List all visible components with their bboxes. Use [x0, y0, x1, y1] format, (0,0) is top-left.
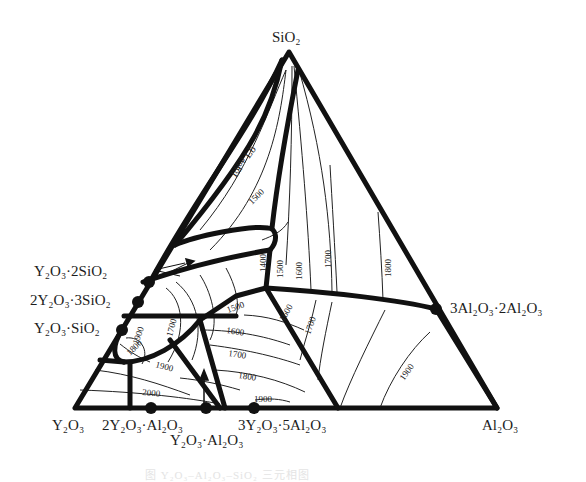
point-2y2o3-al2o3 — [145, 402, 157, 414]
svg-text:1600: 1600 — [277, 302, 295, 323]
point-y2o3-2sio2 — [143, 276, 155, 288]
compound-label-y2o3-al2o3: Y₂O₃·Al₂O₃ — [170, 433, 243, 448]
isotherm-lines — [80, 66, 430, 408]
svg-text:2000: 2000 — [142, 387, 161, 399]
compound-label-3al2o3-2al2o3: 3Al₂O₃·2Al₂O₃ — [450, 301, 543, 316]
svg-text:1400: 1400 — [258, 254, 268, 273]
vertex-label-y2o3: Y₂O₃ — [52, 418, 84, 433]
vertex-label-sio2: SiO₂ — [272, 30, 301, 45]
compound-label-y2o3-sio2: Y₂O₃·SiO₂ — [34, 321, 100, 336]
compound-label-y2o3-2sio2: Y₂O₃·2SiO₂ — [34, 264, 107, 279]
svg-text:1700: 1700 — [302, 315, 318, 336]
compound-label-3y2o3-5al2o3: 3Y₂O₃·5Al₂O₃ — [238, 418, 326, 433]
svg-text:1900: 1900 — [397, 361, 416, 382]
svg-text:1700: 1700 — [164, 317, 178, 337]
point-y2o3-sio2 — [116, 324, 128, 336]
svg-text:1700: 1700 — [323, 250, 333, 269]
point-2y2o3-3sio2 — [132, 296, 144, 308]
figure-caption: 图 Y₂O₃–Al₂O₃–SiO₂ 三元相图 — [145, 466, 310, 482]
svg-text:1600: 1600 — [226, 325, 246, 337]
compound-label-2y2o3-3sio2: 2Y₂O₃·3SiO₂ — [30, 293, 111, 308]
svg-text:1900: 1900 — [254, 394, 273, 404]
svg-text:1900: 1900 — [154, 359, 174, 373]
triangle-outline — [75, 52, 497, 408]
point-y2o3-al2o3 — [200, 402, 212, 414]
svg-text:1800: 1800 — [238, 370, 258, 382]
svg-text:1500: 1500 — [275, 260, 285, 279]
compound-points — [116, 276, 442, 414]
vertex-label-al2o3: Al₂O₃ — [482, 418, 518, 433]
svg-text:1800: 1800 — [383, 259, 393, 278]
phase-boundaries — [75, 52, 497, 408]
svg-text:1500: 1500 — [246, 186, 266, 206]
svg-text:1600: 1600 — [294, 262, 304, 281]
svg-text:1700: 1700 — [228, 348, 248, 360]
point-3al2o3-2al2o3 — [430, 303, 442, 315]
compound-label-2y2o3-al2o3: 2Y₂O₃·Al₂O₃ — [102, 418, 183, 433]
arrow-indicator — [148, 259, 208, 408]
